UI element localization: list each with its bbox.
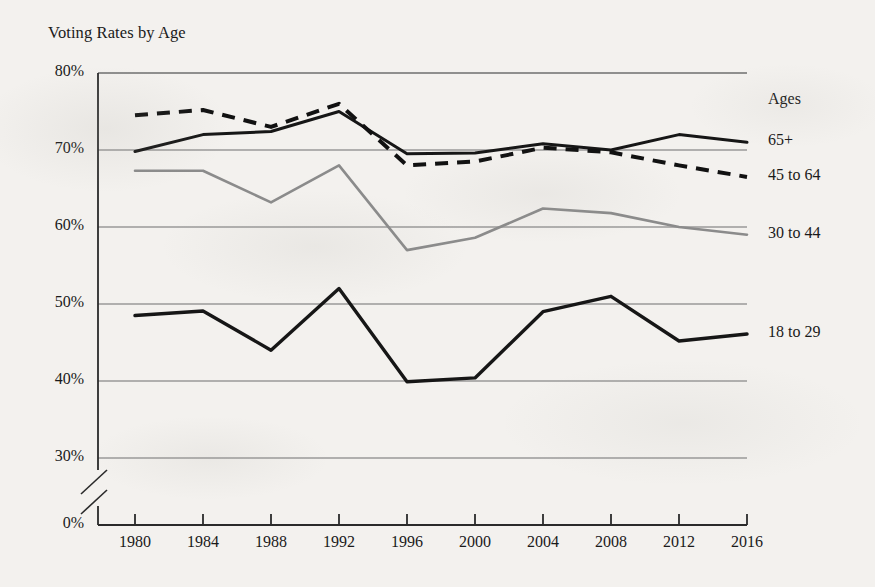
legend-item-65+: 65+ [768, 131, 793, 149]
x-tick-label-2000: 2000 [440, 533, 510, 551]
series-line-30-to-44 [135, 165, 747, 250]
x-tick-label-2012: 2012 [644, 533, 714, 551]
x-tick-label-2008: 2008 [576, 533, 646, 551]
x-tick-label-2004: 2004 [508, 533, 578, 551]
y-tick-label-40pct: 40% [28, 370, 84, 388]
legend-item-45-to-64: 45 to 64 [768, 166, 820, 184]
y-tick-label-60pct: 60% [28, 216, 84, 234]
axis-break-slash-1 [81, 470, 107, 494]
y-tick-label-50pct: 50% [28, 293, 84, 311]
axis-break-slash-2 [81, 490, 107, 514]
y-tick-label-0pct: 0% [28, 514, 84, 532]
legend-item-18-to-29: 18 to 29 [768, 323, 820, 341]
voting-rates-chart: Voting Rates by Age 0%30%40%50%60%70%80%… [0, 0, 875, 587]
x-axis-ticks [135, 514, 747, 525]
y-tick-label-30pct: 30% [28, 447, 84, 465]
series-line-18-to-29 [135, 289, 747, 382]
legend-item-30-to-44: 30 to 44 [768, 224, 820, 242]
y-tick-label-70pct: 70% [28, 139, 84, 157]
x-tick-label-2016: 2016 [712, 533, 782, 551]
y-tick-label-80pct: 80% [28, 62, 84, 80]
x-tick-label-1992: 1992 [304, 533, 374, 551]
data-series-group [135, 104, 747, 382]
x-tick-label-1996: 1996 [372, 533, 442, 551]
gridlines-group [98, 73, 747, 458]
x-tick-label-1984: 1984 [168, 533, 238, 551]
x-tick-label-1980: 1980 [100, 533, 170, 551]
legend-title: Ages [768, 90, 801, 108]
x-tick-label-1988: 1988 [236, 533, 306, 551]
chart-plot-area [0, 0, 875, 587]
